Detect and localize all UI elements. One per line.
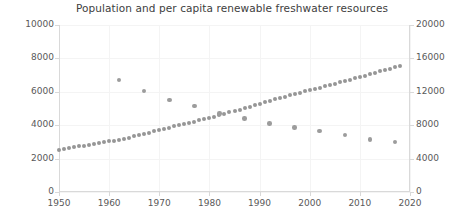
data-point-marker xyxy=(368,72,372,76)
x-axis-tick-label: 1980 xyxy=(189,198,229,208)
tick-mark xyxy=(410,92,414,93)
data-point-marker xyxy=(258,102,262,106)
data-point-marker xyxy=(127,136,131,140)
gridline-horizontal xyxy=(59,92,410,93)
gridline-vertical xyxy=(410,25,411,192)
chart-root: Population and per capita renewable fres… xyxy=(0,0,464,216)
data-point-marker xyxy=(398,64,402,68)
data-point-marker xyxy=(343,133,348,138)
data-point-marker xyxy=(222,112,226,116)
y-axis-left-tick-label: 10000 xyxy=(8,19,54,29)
data-point-marker xyxy=(87,143,91,147)
y-axis-right-tick-label: 20000 xyxy=(416,19,462,29)
x-axis-tick-label: 2000 xyxy=(290,198,330,208)
gridline-vertical xyxy=(159,25,160,192)
gridline-horizontal xyxy=(59,159,410,160)
tick-mark xyxy=(55,25,59,26)
data-point-marker xyxy=(132,134,136,138)
x-axis-tick-label: 1950 xyxy=(39,198,79,208)
data-point-marker xyxy=(373,71,377,75)
data-point-marker xyxy=(152,129,156,133)
data-point-marker xyxy=(157,128,161,132)
data-point-marker xyxy=(107,139,111,143)
data-point-marker xyxy=(343,79,347,83)
x-axis-line xyxy=(59,191,410,192)
data-point-marker xyxy=(162,127,166,131)
data-point-marker xyxy=(62,147,66,151)
gridline-vertical xyxy=(109,25,110,192)
data-point-marker xyxy=(172,124,176,128)
data-point-marker xyxy=(207,116,211,120)
data-point-marker xyxy=(187,121,191,125)
tick-mark xyxy=(310,192,311,196)
data-point-marker xyxy=(72,145,76,149)
data-point-marker xyxy=(273,97,277,101)
data-point-marker xyxy=(293,92,297,96)
data-point-marker xyxy=(278,96,282,100)
data-point-marker xyxy=(227,110,231,114)
data-point-marker xyxy=(177,123,181,127)
data-point-marker xyxy=(197,118,201,122)
data-point-marker xyxy=(313,87,317,91)
data-point-marker xyxy=(112,139,116,143)
tick-mark xyxy=(410,125,414,126)
tick-mark xyxy=(410,159,414,160)
y-axis-left-tick-label: 2000 xyxy=(8,153,54,163)
data-point-marker xyxy=(102,140,106,144)
data-point-marker xyxy=(192,104,197,109)
tick-mark xyxy=(159,192,160,196)
y-axis-left-tick-label: 0 xyxy=(8,186,54,196)
data-point-marker xyxy=(317,129,322,134)
data-point-marker xyxy=(363,74,367,78)
data-point-marker xyxy=(288,93,292,97)
data-point-marker xyxy=(77,144,81,148)
tick-mark xyxy=(55,92,59,93)
data-point-marker xyxy=(263,100,267,104)
data-point-marker xyxy=(167,98,172,103)
data-point-marker xyxy=(338,80,342,84)
data-point-marker xyxy=(388,67,392,71)
data-point-marker xyxy=(292,125,297,130)
chart-title: Population and per capita renewable fres… xyxy=(0,2,464,14)
y-axis-right-tick-label: 0 xyxy=(416,186,462,196)
tick-mark xyxy=(109,192,110,196)
y-axis-left-tick-label: 8000 xyxy=(8,52,54,62)
x-axis-tick-label: 2010 xyxy=(340,198,380,208)
gridline-vertical xyxy=(260,25,261,192)
data-point-marker xyxy=(383,68,387,72)
data-point-marker xyxy=(348,78,352,82)
data-point-marker xyxy=(238,108,242,112)
data-point-marker xyxy=(142,132,146,136)
x-axis-tick-label: 1990 xyxy=(240,198,280,208)
y-axis-left-line xyxy=(59,25,60,192)
data-point-marker xyxy=(212,115,216,119)
gridline-horizontal xyxy=(59,58,410,59)
x-axis-tick-label: 1970 xyxy=(139,198,179,208)
data-point-marker xyxy=(268,99,272,103)
data-point-marker xyxy=(248,105,252,109)
data-point-marker xyxy=(233,109,237,113)
tick-mark xyxy=(55,125,59,126)
y-axis-left-tick-label: 6000 xyxy=(8,86,54,96)
data-point-marker xyxy=(253,103,257,107)
data-point-marker xyxy=(117,138,121,142)
data-point-marker xyxy=(267,121,272,126)
data-point-marker xyxy=(67,146,71,150)
data-point-marker xyxy=(82,144,86,148)
y-axis-left-tick-label: 4000 xyxy=(8,119,54,129)
data-point-marker xyxy=(323,84,327,88)
x-axis-tick-label: 2020 xyxy=(390,198,430,208)
data-point-marker xyxy=(393,140,398,145)
data-point-marker xyxy=(117,78,122,83)
data-point-marker xyxy=(57,148,61,152)
data-point-marker xyxy=(328,83,332,87)
data-point-marker xyxy=(92,142,96,146)
tick-mark xyxy=(55,58,59,59)
tick-mark xyxy=(209,192,210,196)
x-axis-tick-label: 1960 xyxy=(89,198,129,208)
data-point-marker xyxy=(283,95,287,99)
data-point-marker xyxy=(202,117,206,121)
tick-mark xyxy=(360,192,361,196)
data-point-marker xyxy=(333,82,337,86)
gridline-horizontal xyxy=(59,125,410,126)
